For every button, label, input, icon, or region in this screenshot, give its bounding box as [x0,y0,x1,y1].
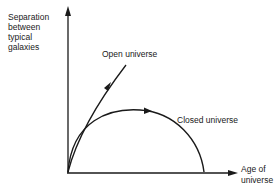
closed-universe-label: Closed universe [177,115,238,125]
closed-universe-arrow-icon [144,108,152,115]
x-axis-label: Age of universe [241,164,273,185]
universe-expansion-diagram: Separation between typical galaxies Age … [0,0,277,193]
open-universe-label: Open universe [102,49,158,59]
y-axis-label: Separation between typical galaxies [8,12,52,52]
y-axis-arrow-icon [65,6,71,16]
x-axis-arrow-icon [228,170,238,176]
